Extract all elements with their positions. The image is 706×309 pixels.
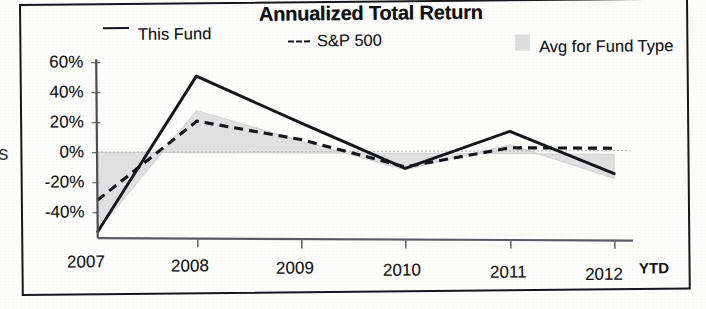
series-area-avg-for-fund-type [97,107,615,230]
y-axis-line [96,59,98,238]
x-tick-marks [198,235,615,253]
x-axis-line [98,234,633,246]
scanned-page-canvas: s Annualized Total Return This Fund S&P … [0,0,706,309]
chart-container: Annualized Total Return This Fund S&P 50… [0,0,706,309]
chart-plot-area [0,0,706,309]
series-line-sp500 [97,117,615,200]
